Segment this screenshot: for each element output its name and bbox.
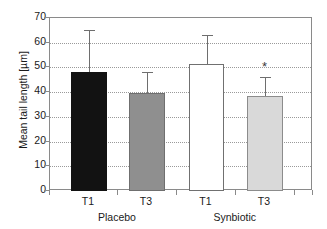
x-group-label-synbiotic: Synbiotic [180, 212, 290, 223]
y-tick-label: 50 [22, 60, 46, 71]
bar-placebo-t3 [129, 93, 165, 191]
x-tick-label-placebo-t1: T1 [68, 196, 108, 207]
bar-synbiotic-t3 [247, 96, 283, 191]
x-tick-label-synbiotic-t1: T1 [186, 196, 226, 207]
error-bar-cap [202, 35, 213, 36]
y-tick-label: 60 [22, 36, 46, 47]
error-bar-stem [147, 72, 148, 93]
y-tick-label: 30 [22, 110, 46, 121]
significance-marker: * [262, 60, 267, 73]
bar-chart: Mean tail length [µm] 706050403020100 * … [0, 0, 327, 229]
error-bar-cap [142, 72, 153, 73]
x-group-label-placebo: Placebo [62, 212, 172, 223]
y-tick-label: 20 [22, 135, 46, 146]
x-tick-mark [49, 190, 50, 195]
x-tick-mark [312, 190, 313, 195]
x-tick-mark [235, 190, 236, 195]
y-tick-label: 70 [22, 11, 46, 22]
error-bar-stem [207, 35, 208, 64]
error-bar-cap [260, 77, 271, 78]
x-tick-mark [294, 190, 295, 195]
bar-placebo-t1 [71, 72, 107, 191]
y-tick-label: 10 [22, 159, 46, 170]
x-tick-mark [117, 190, 118, 195]
x-tick-mark [176, 190, 177, 195]
y-tick-label: 40 [22, 85, 46, 96]
x-tick-label-synbiotic-t3: T3 [244, 196, 284, 207]
plot-area: * [49, 17, 312, 190]
y-tick-label: 0 [22, 184, 46, 195]
bar-synbiotic-t1 [189, 64, 224, 191]
error-bar-cap [84, 30, 95, 31]
error-bar-stem [265, 77, 266, 95]
error-bar-stem [89, 30, 90, 72]
x-tick-label-placebo-t3: T3 [126, 196, 166, 207]
